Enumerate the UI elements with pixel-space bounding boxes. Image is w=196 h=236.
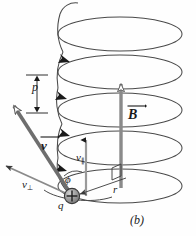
magnetic-field-label-text: B	[128, 107, 137, 122]
velocity-parallel-label: v∥	[76, 152, 85, 165]
velocity-label: v	[41, 139, 47, 152]
charge-label: q	[58, 200, 64, 211]
velocity-parallel-subscript: ∥	[81, 157, 85, 164]
angle-phi-label: ϕ	[65, 174, 71, 185]
magnetic-field-label: B	[128, 108, 137, 122]
velocity-perpendicular-label: v⊥	[22, 179, 33, 192]
radius-label: r	[113, 184, 117, 195]
charged-particle	[64, 188, 79, 203]
physics-figure-helical-motion: B v v∥ v⊥ p r q ϕ (b)	[0, 0, 196, 236]
pitch-label: p	[32, 81, 38, 93]
figure-canvas	[0, 0, 196, 236]
pitch-arrow-down	[34, 107, 40, 113]
figure-caption: (b)	[130, 214, 144, 226]
velocity-label-text: v	[41, 138, 47, 153]
velocity-perpendicular-subscript: ⊥	[27, 184, 33, 191]
